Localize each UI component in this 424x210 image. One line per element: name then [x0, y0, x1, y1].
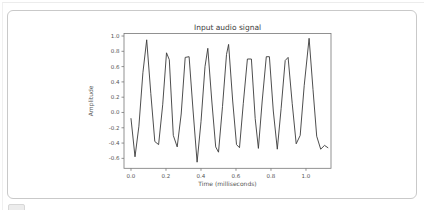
x-axis-label: Time (milliseconds) [197, 180, 256, 187]
y-tick-label: 0.6 [111, 64, 120, 70]
x-tick-label: 0.8 [267, 173, 276, 179]
y-tick-label: 0.8 [111, 48, 120, 54]
chart-title: Input audio signal [194, 23, 261, 32]
y-tick-label: -0.4 [109, 140, 120, 146]
x-tick-label: 0.4 [197, 173, 206, 179]
x-tick-label: 0.6 [232, 173, 241, 179]
x-tick-label: 0.2 [162, 173, 171, 179]
waveform-chart: Input audio signalTime (milliseconds)Amp… [0, 0, 424, 210]
y-tick-label: -0.6 [109, 155, 120, 161]
y-tick-label: 1.0 [111, 33, 120, 39]
y-tick-label: 0.2 [111, 94, 120, 100]
plot-area [124, 34, 331, 169]
y-tick-label: 0.0 [111, 109, 120, 115]
y-axis-label: Amplitude [87, 85, 95, 116]
y-tick-label: 0.4 [111, 79, 120, 85]
y-tick-label: -0.2 [109, 125, 120, 131]
x-tick-label: 0.0 [127, 173, 136, 179]
x-tick-label: 1.0 [302, 173, 311, 179]
